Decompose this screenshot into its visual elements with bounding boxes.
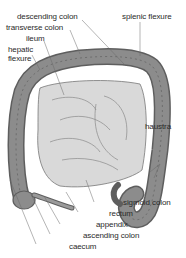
large-intestine-diagram: descending colon splenic flexure transve… xyxy=(0,0,186,258)
label-transverse-colon: transverse colon xyxy=(6,23,63,32)
label-splenic-flexure: splenic flexure xyxy=(122,12,172,21)
label-sigmoid-colon: sigmoid colon xyxy=(123,198,171,207)
label-ileum: ileum xyxy=(26,34,45,43)
label-appendix: appendix xyxy=(96,220,128,229)
label-descending-colon: descending colon xyxy=(17,12,78,21)
label-hepatic-flexure-line1: hepatic xyxy=(8,45,33,54)
label-rectum: rectum xyxy=(109,209,133,218)
label-ascending-colon: ascending colon xyxy=(83,231,139,240)
label-hepatic-flexure-line2: flexure xyxy=(8,54,31,63)
label-haustra: haustra xyxy=(145,122,171,131)
label-caecum: caecum xyxy=(69,242,96,251)
small-intestine xyxy=(38,81,147,187)
